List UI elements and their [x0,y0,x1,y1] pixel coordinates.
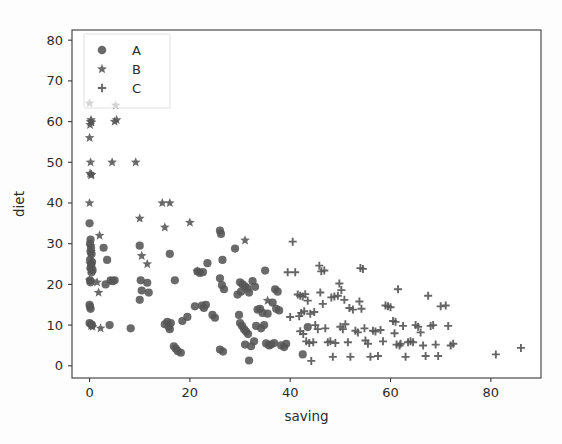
point-marker-circle [171,276,179,284]
legend-label-C: C [132,81,141,96]
legend[interactable]: ABC [84,34,170,108]
circle-marker-icon [98,46,107,55]
x-axis-title: saving [284,408,328,424]
point-marker-circle [237,288,245,296]
point-marker-circle [260,321,268,329]
point-marker-circle [250,337,258,345]
point-marker-circle [261,266,269,274]
legend-label-B: B [132,62,141,77]
point-marker-circle [111,276,119,284]
x-tick-label: 40 [282,385,299,400]
point-marker-circle [218,256,226,264]
point-marker-circle [145,288,153,296]
y-axis-ticks: 01020304050607080 [46,33,72,374]
chart-canvas: 020406080 01020304050607080 ABC saving d… [0,0,562,444]
point-marker-circle [85,219,93,227]
point-marker-circle [103,256,111,264]
point-marker-circle [183,313,191,321]
point-marker-circle [106,321,114,329]
y-tick-label: 70 [46,73,63,88]
point-marker-circle [138,286,146,294]
point-marker-circle [211,314,219,322]
point-marker-circle [86,305,94,313]
x-tick-label: 0 [85,385,93,400]
point-marker-circle [264,310,272,318]
x-tick-label: 80 [483,385,500,400]
point-marker-circle [167,319,175,327]
y-tick-label: 40 [46,195,63,210]
point-marker-circle [220,285,228,293]
point-marker-circle [275,306,283,314]
point-marker-circle [304,323,312,331]
point-marker-circle [202,301,210,309]
point-marker-circle [216,274,224,282]
point-marker-circle [127,324,135,332]
y-tick-label: 60 [46,114,63,129]
point-marker-circle [143,279,151,287]
point-marker-circle [245,288,253,296]
point-marker-circle [299,350,307,358]
point-marker-circle [100,244,108,252]
x-tick-label: 20 [182,385,199,400]
x-axis-ticks: 020406080 [85,378,499,400]
point-marker-circle [282,340,290,348]
point-marker-circle [177,349,185,357]
point-marker-circle [219,347,227,355]
point-marker-circle [270,339,278,347]
point-marker-circle [136,242,144,250]
point-marker-circle [102,280,110,288]
point-marker-circle [274,288,282,296]
x-tick-label: 60 [382,385,399,400]
y-tick-label: 80 [46,33,63,48]
y-tick-label: 20 [46,277,63,292]
y-tick-label: 10 [46,318,63,333]
y-tick-label: 0 [55,358,63,373]
y-tick-label: 50 [46,155,63,170]
point-marker-circle [203,259,211,267]
point-marker-circle [244,330,252,338]
point-marker-circle [191,302,199,310]
point-marker-circle [136,296,144,304]
point-marker-circle [251,283,259,291]
point-marker-circle [217,230,225,238]
y-tick-label: 30 [46,236,63,251]
y-axis-title: diet [11,191,27,217]
legend-label-A: A [132,43,141,58]
point-marker-circle [166,250,174,258]
point-marker-circle [231,244,239,252]
scatter-plot-figure: 020406080 01020304050607080 ABC saving d… [0,0,562,444]
point-marker-circle [235,311,243,319]
point-marker-circle [245,356,253,364]
